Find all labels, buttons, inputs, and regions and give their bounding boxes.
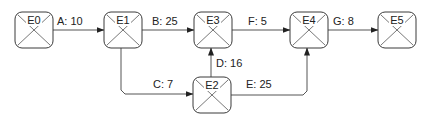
node-e0[interactable]: E0 bbox=[15, 12, 53, 48]
node-label: E1 bbox=[116, 14, 129, 26]
node-e3[interactable]: E3 bbox=[194, 12, 232, 48]
node-e2[interactable]: E2 bbox=[193, 77, 231, 113]
edge-f[interactable]: F: 5 bbox=[232, 15, 290, 30]
edge-label: C: 7 bbox=[153, 78, 173, 90]
node-label: E5 bbox=[390, 14, 403, 26]
node-label: E2 bbox=[205, 79, 218, 91]
edge-label: E: 25 bbox=[246, 78, 272, 90]
edge-a[interactable]: A: 10 bbox=[53, 15, 104, 30]
edge-d[interactable]: D: 16 bbox=[211, 48, 242, 77]
network-diagram: A: 10B: 25F: 5G: 8D: 16C: 7E: 25 E0E1E3E… bbox=[0, 0, 430, 122]
node-e4[interactable]: E4 bbox=[290, 12, 328, 48]
node-e1[interactable]: E1 bbox=[104, 12, 142, 48]
edge-label: B: 25 bbox=[152, 15, 178, 27]
edge-g[interactable]: G: 8 bbox=[328, 15, 378, 30]
edge-label: F: 5 bbox=[248, 15, 267, 27]
node-label: E3 bbox=[206, 14, 219, 26]
node-e5[interactable]: E5 bbox=[378, 12, 416, 48]
node-label: E0 bbox=[27, 14, 40, 26]
node-label: E4 bbox=[302, 14, 315, 26]
edge-b[interactable]: B: 25 bbox=[142, 15, 194, 30]
edge-label: A: 10 bbox=[57, 15, 83, 27]
edge-e[interactable]: E: 25 bbox=[231, 48, 307, 95]
edge-label: D: 16 bbox=[216, 57, 242, 69]
edge-c[interactable]: C: 7 bbox=[121, 48, 193, 94]
edge-label: G: 8 bbox=[333, 15, 354, 27]
